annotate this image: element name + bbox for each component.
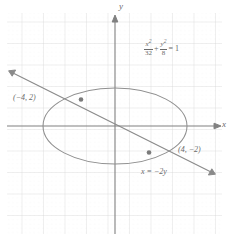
ellipse-eq-term-2-denominator: 8 bbox=[160, 50, 168, 57]
y-axis-label: y bbox=[119, 1, 123, 11]
ellipse-eq-term-2-exponent: 2 bbox=[164, 38, 167, 44]
ellipse-eq-plus-sign: + bbox=[154, 44, 159, 53]
ellipse-eq-term-1-denominator: 32 bbox=[144, 50, 153, 57]
point-label-right: (4, −2) bbox=[178, 145, 201, 154]
line-equation-label: x = −2y bbox=[141, 167, 167, 176]
graph-canvas bbox=[0, 0, 230, 241]
point-label-left: (−4, 2) bbox=[13, 93, 36, 102]
ellipse-equation-label: x2 32 + y2 8 = 1 bbox=[143, 41, 179, 57]
ellipse-eq-term-1: x2 32 bbox=[144, 41, 153, 57]
ellipse-eq-term-1-exponent: 2 bbox=[149, 38, 152, 44]
point-marker-right bbox=[147, 150, 152, 155]
graph-figure: y x (−4, 2) (4, −2) x = −2y x2 32 + y2 8… bbox=[0, 0, 230, 241]
point-marker-left bbox=[79, 97, 84, 102]
x-axis-label: x bbox=[222, 119, 226, 129]
ellipse-eq-term-2: y2 8 bbox=[160, 41, 168, 57]
ellipse-eq-equals: = 1 bbox=[168, 44, 179, 53]
